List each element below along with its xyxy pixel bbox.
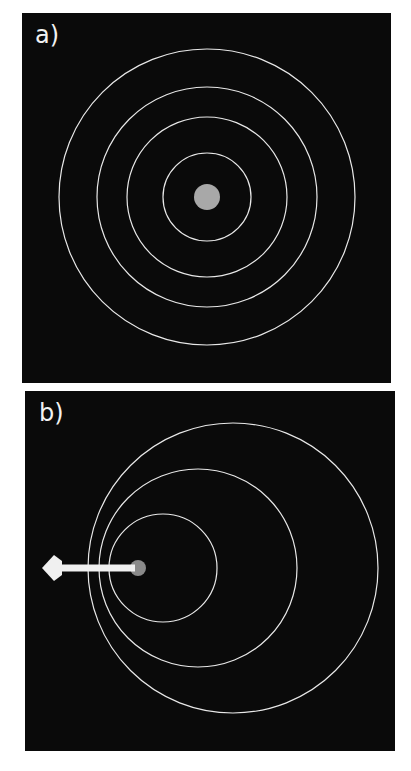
panel-b-moving-source: b) xyxy=(25,391,395,751)
sound-source xyxy=(194,184,220,210)
wavefront-diagram-b xyxy=(25,391,395,751)
wavefront-diagram-a xyxy=(22,13,391,383)
panel-a-stationary-source: a) xyxy=(22,13,391,383)
